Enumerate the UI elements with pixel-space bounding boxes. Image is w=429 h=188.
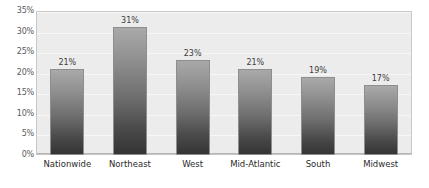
bar-value-label: 31%: [113, 16, 147, 25]
bar-value-label: 17%: [364, 74, 398, 83]
x-axis-category-label: Northeast: [99, 159, 162, 170]
y-axis-tick-label: 15%: [0, 89, 34, 97]
y-axis-tick-label: 20%: [0, 69, 34, 77]
bar-group: 17%: [364, 11, 398, 155]
bar-value-label: 21%: [50, 58, 84, 67]
bar[interactable]: [113, 27, 147, 155]
bar-group: 23%: [176, 11, 210, 155]
x-axis-category-label: Midwest: [349, 159, 412, 170]
bar-group: 19%: [301, 11, 335, 155]
bar-group: 21%: [238, 11, 272, 155]
x-axis-labels: NationwideNortheastWestMid-AtlanticSouth…: [36, 159, 412, 179]
y-axis-tick-label: 0%: [0, 151, 34, 159]
bar[interactable]: [176, 60, 210, 155]
bar-chart: 0%5%10%15%20%25%30%35% 21%31%23%21%19%17…: [0, 0, 429, 188]
bar-value-label: 21%: [238, 58, 272, 67]
x-axis-category-label: Mid-Atlantic: [224, 159, 287, 170]
bar-group: 21%: [50, 11, 84, 155]
x-axis-category-label: Nationwide: [36, 159, 99, 170]
y-axis-tick-label: 10%: [0, 110, 34, 118]
x-axis-category-label: South: [287, 159, 350, 170]
bar-group: 31%: [113, 11, 147, 155]
bar[interactable]: [301, 77, 335, 155]
y-axis-tick-label: 25%: [0, 48, 34, 56]
y-axis-tick-label: 35%: [0, 7, 34, 15]
bar[interactable]: [364, 85, 398, 155]
y-axis-tick-label: 30%: [0, 28, 34, 36]
y-axis-tick-label: 5%: [0, 130, 34, 138]
bar[interactable]: [50, 69, 84, 155]
x-axis-category-label: West: [161, 159, 224, 170]
bars-layer: 21%31%23%21%19%17%: [36, 11, 412, 155]
y-axis: 0%5%10%15%20%25%30%35%: [0, 0, 34, 188]
bar-value-label: 23%: [176, 49, 210, 58]
bar[interactable]: [238, 69, 272, 155]
bar-value-label: 19%: [301, 66, 335, 75]
